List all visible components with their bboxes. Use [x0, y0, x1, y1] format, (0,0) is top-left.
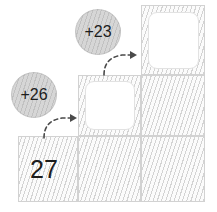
diagram-canvas: 27 +26 +23 — [0, 0, 217, 212]
empty-slot-top[interactable] — [148, 12, 199, 69]
badge-plus-23[interactable]: +23 — [75, 9, 121, 55]
badge-plus-23-label: +23 — [84, 23, 111, 41]
block-value-27: 27 — [30, 157, 58, 182]
block-bottom-right[interactable] — [141, 136, 205, 202]
badge-plus-26-label: +26 — [20, 86, 47, 104]
block-top-right[interactable] — [141, 5, 205, 75]
block-bottom-middle[interactable] — [78, 136, 141, 202]
badge-plus-26[interactable]: +26 — [11, 72, 57, 118]
block-middle-right[interactable] — [141, 75, 205, 136]
block-middle-middle[interactable] — [78, 75, 141, 136]
empty-slot-middle[interactable] — [85, 81, 135, 130]
